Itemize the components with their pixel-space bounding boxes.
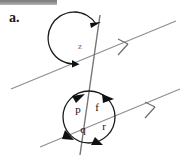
angle-label-q: q [80, 123, 86, 135]
figure-page: a. z p [0, 0, 187, 163]
angle-label-r: r [102, 120, 106, 132]
angle-arrowhead-r-bottom [91, 137, 103, 145]
angle-label-z: z [78, 41, 82, 51]
upper-parallel-line [11, 21, 176, 89]
lower-parallel-chevron-icon [145, 102, 155, 118]
angle-arc-z-arrowhead [90, 22, 101, 28]
angle-label-p: p [75, 103, 81, 115]
angle-label-f: f [95, 101, 99, 113]
angle-arc-z [48, 12, 96, 64]
angle-arrowhead-f-top [102, 94, 114, 103]
parallel-lines-transversal-diagram: z p f q r [0, 0, 187, 163]
